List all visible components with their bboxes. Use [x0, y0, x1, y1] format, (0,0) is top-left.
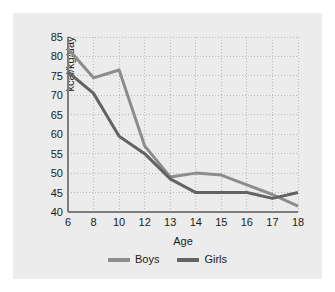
- x-tick-label: 16: [241, 217, 253, 228]
- y-tick-label: 70: [51, 90, 63, 101]
- legend-item-girls[interactable]: Girls: [177, 254, 227, 265]
- y-tick-label: 40: [51, 207, 63, 218]
- chart-legend: BoysGirls: [13, 254, 322, 265]
- x-tick-label: 12: [139, 217, 151, 228]
- x-tick-label: 13: [164, 217, 176, 228]
- legend-swatch-icon: [177, 258, 199, 262]
- legend-label: Boys: [135, 254, 159, 265]
- legend-item-boys[interactable]: Boys: [108, 254, 159, 265]
- x-tick-label: 15: [215, 217, 227, 228]
- y-tick-label: 55: [51, 148, 63, 159]
- legend-swatch-icon: [108, 258, 130, 262]
- x-axis-title: Age: [68, 235, 298, 247]
- y-tick-label: 75: [51, 70, 63, 81]
- series-layer: [68, 37, 298, 212]
- legend-label: Girls: [204, 254, 227, 265]
- plot-area: 40455055606570758085 681012131415161718: [68, 37, 298, 212]
- x-tick-label: 10: [113, 217, 125, 228]
- chart-figure: kcal/kg/day 40455055606570758085 6810121…: [13, 13, 322, 279]
- y-tick-label: 80: [51, 51, 63, 62]
- x-tick-label: 14: [190, 217, 202, 228]
- series-line-boys: [68, 49, 298, 207]
- x-tick-label: 6: [65, 217, 71, 228]
- y-tick-label: 85: [51, 32, 63, 43]
- y-tick-label: 60: [51, 129, 63, 140]
- series-line-girls: [68, 72, 298, 198]
- y-tick-label: 65: [51, 109, 63, 120]
- x-tick-label: 8: [90, 217, 96, 228]
- y-tick-label: 50: [51, 168, 63, 179]
- y-tick-label: 45: [51, 187, 63, 198]
- x-tick-label: 17: [266, 217, 278, 228]
- x-tick-label: 18: [292, 217, 304, 228]
